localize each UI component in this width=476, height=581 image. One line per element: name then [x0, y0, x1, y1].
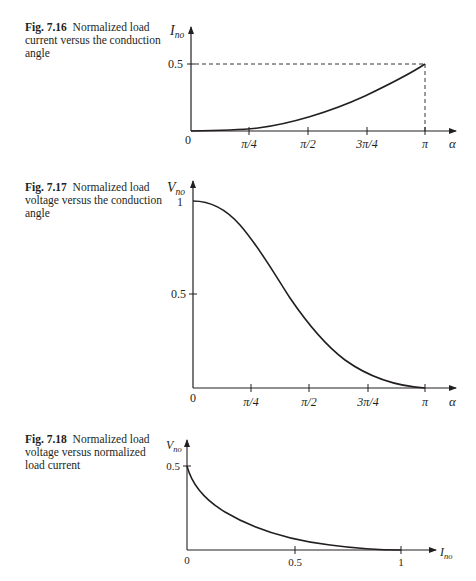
y-tick-label: 0.5	[168, 57, 183, 71]
origin-label: 0	[185, 133, 191, 147]
x-tick-label: π	[422, 395, 429, 409]
curve-voltage-vs-current	[187, 466, 401, 550]
origin-label: 0	[190, 391, 196, 405]
y-axis-label: Ino	[169, 23, 184, 40]
labels-fig-7-16: Ino 0.5 0 π/4 π/2 3π/4 π α	[168, 23, 457, 151]
chart-fig-7-18	[183, 440, 436, 554]
x-axis-label: α	[449, 394, 457, 409]
curve-load-current	[191, 64, 425, 131]
y-tick-label: 1	[177, 195, 183, 209]
x-tick-label: π/4	[243, 395, 258, 409]
y-tick-label: 0.5	[166, 460, 180, 472]
x-tick-label: 0.5	[288, 556, 302, 568]
labels-fig-7-18: Vno 0.5 0 0.5 1 Ino	[166, 438, 453, 568]
x-tick-label: π/2	[301, 395, 316, 409]
x-tick-label: π	[422, 137, 429, 151]
x-tick-label: 1	[398, 556, 404, 568]
y-axis-label: Vno	[166, 438, 182, 454]
figure-canvas: Ino 0.5 0 π/4 π/2 3π/4 π α Vno 1 0.5 0 π…	[0, 0, 476, 581]
y-tick-label: 0.5	[171, 287, 186, 301]
x-tick-label: 3π/4	[355, 137, 377, 151]
x-axis-label: Ino	[439, 545, 453, 561]
chart-fig-7-16	[187, 27, 456, 135]
curve-load-voltage	[193, 201, 425, 388]
x-tick-label: π/4	[241, 137, 256, 151]
x-axis-label: α	[449, 136, 457, 151]
labels-fig-7-17: Vno 1 0.5 0 π/4 π/2 3π/4 π α	[167, 180, 457, 409]
x-tick-label: 3π/4	[356, 395, 378, 409]
chart-fig-7-17	[189, 181, 456, 392]
origin-label: 0	[184, 554, 190, 566]
x-tick-label: π/2	[300, 137, 315, 151]
